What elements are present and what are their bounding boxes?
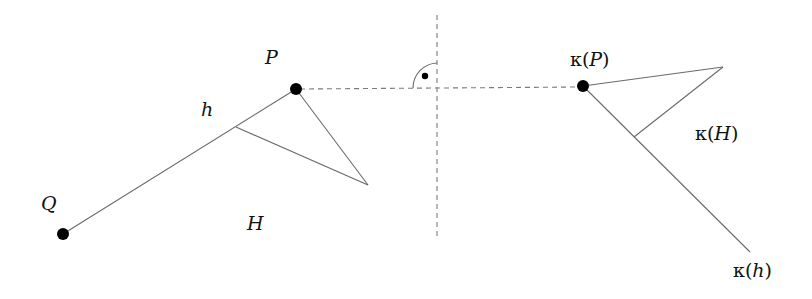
point-P xyxy=(290,83,302,95)
label-P: P xyxy=(264,46,279,68)
label-h: h xyxy=(201,98,213,120)
dashed-connector xyxy=(300,87,580,89)
point-kappa-P xyxy=(577,80,589,92)
label-Q: Q xyxy=(41,192,57,214)
label-kappa-h: κ(h) xyxy=(733,259,772,281)
reflection-diagram: P h Q H κ(P) κ(H) κ(h) xyxy=(0,0,812,299)
halfplane-H-edge-2 xyxy=(296,89,368,185)
point-Q xyxy=(57,228,69,240)
right-angle-dot xyxy=(422,73,428,79)
label-H: H xyxy=(246,212,264,234)
label-kappa-H: κ(H) xyxy=(695,122,738,144)
label-kappa-P: κ(P) xyxy=(570,48,610,70)
halfplane-H-edge-1 xyxy=(236,127,368,185)
